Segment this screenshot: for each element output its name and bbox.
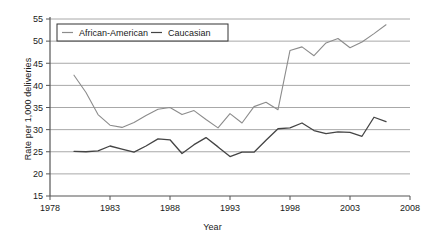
- x-tick-label: 1988: [160, 203, 180, 213]
- y-tick-label: 35: [33, 103, 43, 113]
- legend-label-1: African-American: [79, 28, 148, 38]
- y-tick-label: 25: [33, 147, 43, 157]
- x-axis-ticks: 1978198319881993199820032008: [40, 196, 420, 213]
- y-tick-label: 50: [33, 36, 43, 46]
- x-tick-label: 1983: [100, 203, 120, 213]
- y-tick-label: 45: [33, 59, 43, 69]
- gridlines-group: [50, 19, 410, 174]
- y-tick-label: 20: [33, 169, 43, 179]
- x-tick-label: 2003: [340, 203, 360, 213]
- data-series-group: [74, 25, 386, 157]
- y-tick-label: 55: [33, 14, 43, 24]
- chart-figure: Rate per 1,000 deliveries Year 152025303…: [0, 0, 425, 240]
- x-tick-label: 2008: [400, 203, 420, 213]
- line-chart-plot: 152025303540455055 197819831988199319982…: [0, 0, 425, 240]
- y-axis-ticks: 152025303540455055: [33, 14, 50, 201]
- x-tick-label: 1978: [40, 203, 60, 213]
- x-tick-label: 1998: [280, 203, 300, 213]
- legend-label-2: Caucasian: [168, 28, 211, 38]
- chart-legend: African-AmericanCaucasian: [57, 24, 228, 41]
- series-line-2: [74, 117, 386, 156]
- y-tick-label: 15: [33, 191, 43, 201]
- y-tick-label: 30: [33, 125, 43, 135]
- x-tick-label: 1993: [220, 203, 240, 213]
- y-tick-label: 40: [33, 81, 43, 91]
